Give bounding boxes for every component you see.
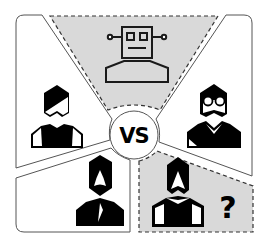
- vs-diagram: VS: [0, 0, 267, 248]
- vs-label: VS: [119, 124, 148, 148]
- unknown-badge: ?: [219, 190, 236, 225]
- vs-badge: VS: [110, 111, 158, 159]
